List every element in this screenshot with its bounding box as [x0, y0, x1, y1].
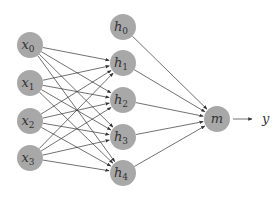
edge-x1-h4: [39, 92, 113, 163]
hidden-node-h2: h2: [110, 87, 136, 113]
output-node-m-label: m: [211, 111, 223, 126]
input-node-x0: x0: [17, 32, 43, 58]
edge-h1-m: [134, 70, 205, 112]
hidden-node-h1: h1: [110, 50, 136, 76]
hidden-node-h3: h3: [110, 124, 136, 150]
input-node-x3: x3: [17, 145, 43, 171]
edge-x3-h3: [43, 140, 110, 155]
edge-x3-h4: [43, 160, 109, 171]
neural-network-diagram: x0x1x2x3h0h1h2h3h4my: [0, 0, 278, 201]
hidden-node-h0: h0: [110, 14, 136, 40]
input-node-x1: x1: [17, 70, 43, 96]
hidden-node-h4: h4: [110, 160, 136, 186]
edge-x3-h2: [41, 107, 111, 151]
edge-h0-m: [132, 36, 207, 109]
input-node-x2: x2: [17, 108, 43, 134]
edge-h4-m: [134, 126, 205, 167]
output-label-y: y: [261, 111, 270, 126]
edge-x2-h1: [41, 70, 111, 114]
edge-x3-h1: [39, 73, 113, 149]
output-node-m: m: [204, 106, 230, 132]
